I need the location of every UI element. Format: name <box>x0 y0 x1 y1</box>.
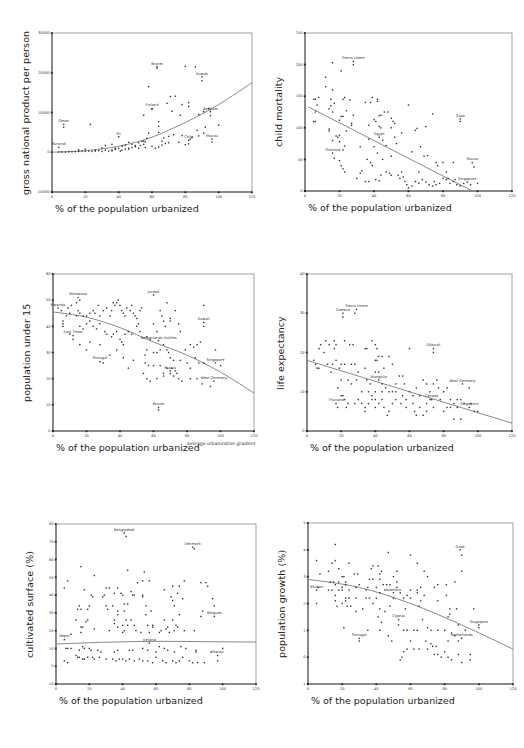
svg-text:100: 100 <box>474 434 482 438</box>
svg-text:50: 50 <box>46 298 51 302</box>
svg-text:Rwanda: Rwanda <box>51 303 65 307</box>
svg-text:10000: 10000 <box>38 111 50 115</box>
svg-text:Botswana: Botswana <box>69 292 87 296</box>
y-axis-label: population growth (%) <box>276 549 287 657</box>
svg-text:Singapore: Singapore <box>460 402 479 406</box>
svg-text:1: 1 <box>303 629 305 633</box>
y-axis-label: gross national product per person <box>20 30 31 194</box>
svg-text:Canada: Canada <box>425 394 439 398</box>
x-axis-label: % of the population urbanized <box>56 442 200 453</box>
svg-text:Brunei: Brunei <box>153 402 165 406</box>
svg-text:Kuwait: Kuwait <box>198 317 211 321</box>
svg-text:30: 30 <box>300 311 305 315</box>
svg-text:120: 120 <box>251 434 259 438</box>
svg-text:100: 100 <box>217 434 225 438</box>
svg-text:Gaza: Gaza <box>456 114 465 118</box>
svg-text:20: 20 <box>84 434 89 438</box>
scatter-plot-life-expectancy: 010203040020406080100120Sierra LeoneGamb… <box>0 0 524 748</box>
svg-text:0: 0 <box>55 687 58 691</box>
svg-text:100: 100 <box>474 194 482 198</box>
svg-text:80: 80 <box>441 194 446 198</box>
svg-text:Burundi: Burundi <box>52 142 66 146</box>
svg-text:-1: -1 <box>302 682 306 686</box>
svg-text:Cyprus: Cyprus <box>392 614 405 618</box>
svg-text:20: 20 <box>49 629 54 633</box>
svg-text:Djibouti: Djibouti <box>426 343 440 347</box>
svg-text:10: 10 <box>49 647 54 651</box>
svg-text:120: 120 <box>249 195 257 199</box>
svg-text:-10000: -10000 <box>37 190 50 194</box>
svg-text:Belgium: Belgium <box>203 107 218 111</box>
y-axis-label: population under 15 <box>21 303 32 401</box>
svg-text:100: 100 <box>219 687 227 691</box>
svg-text:Namibia: Namibia <box>386 588 401 592</box>
scatter-plot-child-mortality: 050100150200250020406080100120Sierra Leo… <box>0 0 524 748</box>
x-axis-label: % of the population urbanized <box>311 695 455 706</box>
svg-text:60: 60 <box>49 558 54 562</box>
svg-text:Gaza: Gaza <box>456 545 465 549</box>
svg-text:Netherlands Antilles: Netherlands Antilles <box>140 336 176 340</box>
svg-text:West Germany: West Germany <box>201 376 228 380</box>
svg-text:100: 100 <box>296 126 304 130</box>
svg-text:-10: -10 <box>48 682 55 686</box>
svg-text:80: 80 <box>49 522 54 526</box>
svg-text:150: 150 <box>296 94 304 98</box>
svg-text:40: 40 <box>374 687 379 691</box>
svg-text:Portugal: Portugal <box>92 356 107 360</box>
y-axis-label: cultivated surface (%) <box>24 550 35 657</box>
svg-text:0: 0 <box>302 429 305 433</box>
svg-text:0: 0 <box>51 664 54 668</box>
svg-text:250: 250 <box>296 31 304 35</box>
svg-text:5: 5 <box>303 521 305 525</box>
svg-text:20000: 20000 <box>38 71 50 75</box>
svg-text:80: 80 <box>187 687 192 691</box>
svg-text:40: 40 <box>300 272 305 276</box>
svg-text:Gambia: Gambia <box>336 308 350 312</box>
svg-text:60: 60 <box>150 195 155 199</box>
svg-text:4: 4 <box>303 548 306 552</box>
trend-line <box>52 83 252 153</box>
svg-text:40: 40 <box>46 325 51 329</box>
svg-text:80: 80 <box>183 195 188 199</box>
svg-text:0: 0 <box>304 194 307 198</box>
svg-text:20: 20 <box>83 195 88 199</box>
svg-text:80: 80 <box>185 434 190 438</box>
x-axis-label: % of the population urbanized <box>55 203 199 214</box>
svg-text:Egypt: Egypt <box>374 132 385 136</box>
svg-text:Sierra Leone: Sierra Leone <box>345 304 368 308</box>
trend-line <box>308 579 513 649</box>
svg-text:Singapore: Singapore <box>458 177 477 181</box>
svg-text:Sierra Leone: Sierra Leone <box>342 56 365 60</box>
svg-text:Thailand: Thailand <box>327 398 343 402</box>
svg-text:30: 30 <box>49 611 54 615</box>
svg-text:120: 120 <box>509 434 517 438</box>
svg-text:20: 20 <box>300 351 305 355</box>
svg-text:20: 20 <box>46 377 51 381</box>
svg-text:Oman: Oman <box>58 119 69 123</box>
svg-text:60: 60 <box>408 687 413 691</box>
scatter-plot-population-under-15: 0102030405060020406080100120BotswanaRwan… <box>0 0 524 748</box>
svg-text:20: 20 <box>87 687 92 691</box>
y-axis-label: child mortality <box>273 77 284 147</box>
svg-text:Russia: Russia <box>164 366 176 370</box>
svg-text:30: 30 <box>46 351 51 355</box>
x-axis-label: % of the population urbanized <box>308 202 452 213</box>
svg-text:0: 0 <box>306 434 309 438</box>
svg-text:Portugal: Portugal <box>352 633 367 637</box>
svg-text:40: 40 <box>372 194 377 198</box>
svg-text:60: 60 <box>407 434 412 438</box>
svg-text:10: 10 <box>46 403 51 407</box>
svg-text:Netherlands: Netherlands <box>451 633 473 637</box>
svg-text:20: 20 <box>340 687 345 691</box>
svg-text:120: 120 <box>510 687 518 691</box>
svg-text:Chile: Chile <box>184 135 194 139</box>
svg-text:50: 50 <box>298 158 303 162</box>
svg-text:40: 40 <box>120 687 125 691</box>
svg-text:Sri: Sri <box>116 132 121 136</box>
svg-text:40: 40 <box>116 195 121 199</box>
scatter-plot-gnp: -100000100002000030000020406080100120Bru… <box>0 0 524 748</box>
svg-text:0: 0 <box>48 429 51 433</box>
svg-text:Finland: Finland <box>146 103 159 107</box>
svg-text:60: 60 <box>151 434 156 438</box>
svg-text:Iceland: Iceland <box>143 638 156 642</box>
